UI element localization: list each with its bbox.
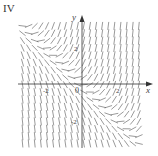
slope-field-plot: x y 0 -2 2 2 -2 — [0, 0, 158, 156]
origin-label: 0 — [75, 86, 79, 95]
x-tick-neg2: -2 — [43, 87, 49, 95]
y-tick-2: 2 — [74, 45, 78, 53]
x-tick-2: 2 — [116, 87, 120, 95]
y-tick-neg2: -2 — [71, 118, 77, 126]
slope-segments — [19, 22, 143, 148]
y-axis-label: y — [71, 12, 76, 22]
x-axis-label: x — [145, 85, 150, 95]
